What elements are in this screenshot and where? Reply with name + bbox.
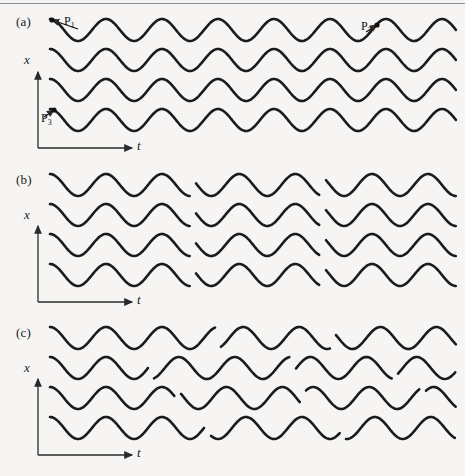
wave-canvas <box>0 0 465 476</box>
waves-group <box>50 19 456 439</box>
wave-coherence-figure: (a) x t P1 P2 P3 (b) x t (c) x t <box>0 0 465 476</box>
annotation-markers <box>44 17 380 117</box>
